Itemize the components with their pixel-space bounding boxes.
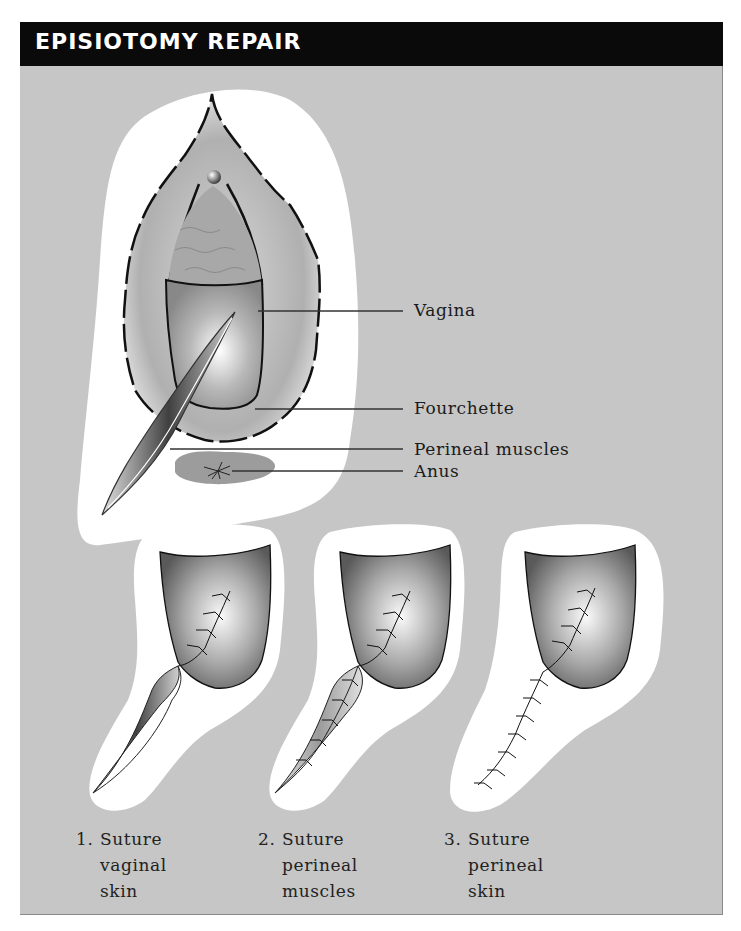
- illustration-canvas: [0, 0, 741, 931]
- step-number: 2.: [258, 826, 282, 852]
- label-fourchette: Fourchette: [414, 398, 514, 418]
- step-number: 1.: [76, 826, 100, 852]
- label-anus: Anus: [414, 461, 459, 481]
- clitoris: [207, 170, 221, 184]
- label-perineal-muscles: Perineal muscles: [414, 439, 569, 459]
- step-1-caption: 1.Suture vaginal skin: [76, 826, 167, 904]
- step-3-caption: 3.Suture perineal skin: [444, 826, 544, 904]
- step-number: 3.: [444, 826, 468, 852]
- step-2-caption: 2.Suture perineal muscles: [258, 826, 358, 904]
- label-vagina: Vagina: [414, 300, 476, 320]
